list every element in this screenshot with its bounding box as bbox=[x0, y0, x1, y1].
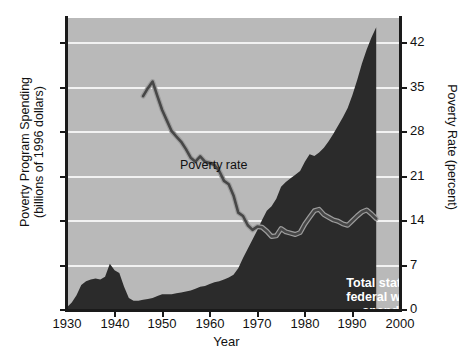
y-axis-left-title-line1: Poverty Program Spending bbox=[18, 42, 32, 262]
xtick-label-1980: 1980 bbox=[282, 316, 328, 331]
ytick-label-right-28: 28 bbox=[410, 123, 424, 138]
y-axis-right-title: Poverty Rate (percent) bbox=[445, 47, 459, 247]
plot-area: Poverty rate Total state and federal wel… bbox=[67, 18, 400, 310]
xtick-label-1970: 1970 bbox=[234, 316, 280, 331]
ytick-left-0 bbox=[60, 309, 67, 311]
ytick-label-right-7: 7 bbox=[410, 257, 417, 272]
annotation-welfare-spending-line1: Total state and bbox=[320, 276, 400, 290]
xtick-label-1990: 1990 bbox=[329, 316, 375, 331]
ytick-label-right-35: 35 bbox=[410, 79, 424, 94]
ytick-label-right-21: 21 bbox=[410, 168, 424, 183]
ytick-label-right-42: 42 bbox=[410, 34, 424, 49]
ytick-label-right-14: 14 bbox=[410, 212, 424, 227]
annotation-welfare-spending: Total state and federal welfare spending bbox=[320, 276, 400, 310]
y-axis-left-title-line2: (billions of 1996 dollars) bbox=[32, 42, 46, 262]
ytick-left-150 bbox=[60, 176, 67, 178]
x-axis-title: Year bbox=[0, 334, 453, 349]
ytick-left-100 bbox=[60, 220, 67, 222]
ytick-right-0 bbox=[400, 309, 407, 311]
ytick-left-300 bbox=[60, 42, 67, 44]
xtick-label-2000: 2000 bbox=[377, 316, 423, 331]
ytick-right-42 bbox=[400, 42, 407, 44]
ytick-right-28 bbox=[400, 131, 407, 133]
ytick-left-250 bbox=[60, 87, 67, 89]
xtick-label-1930: 1930 bbox=[44, 316, 90, 331]
xtick-label-1950: 1950 bbox=[139, 316, 185, 331]
annotation-poverty-rate: Poverty rate bbox=[180, 158, 247, 172]
y-axis-left-title: Poverty Program Spending (billions of 19… bbox=[18, 42, 46, 262]
ytick-right-7 bbox=[400, 265, 407, 267]
ytick-right-14 bbox=[400, 220, 407, 222]
ytick-left-50 bbox=[60, 265, 67, 267]
xtick-label-1960: 1960 bbox=[187, 316, 233, 331]
xtick-label-1940: 1940 bbox=[92, 316, 138, 331]
ytick-left-200 bbox=[60, 131, 67, 133]
ytick-right-21 bbox=[400, 176, 407, 178]
ytick-label-right-0: 0 bbox=[410, 301, 417, 316]
annotation-welfare-spending-line2: federal welfare spending bbox=[320, 290, 400, 310]
ytick-right-35 bbox=[400, 87, 407, 89]
